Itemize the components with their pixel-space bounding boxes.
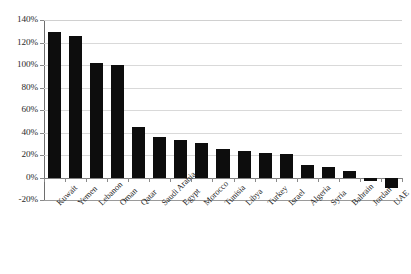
y-axis-tick-mark — [40, 65, 44, 66]
x-axis-tick-mark — [44, 178, 45, 182]
x-axis-tick-mark — [234, 178, 235, 182]
y-axis-tick-label: 40% — [0, 128, 38, 137]
x-axis-tick-mark — [276, 178, 277, 182]
x-axis-tick-mark — [318, 178, 319, 182]
bar — [343, 171, 356, 178]
y-axis-tick-label: 80% — [0, 83, 38, 92]
x-axis-tick-mark — [381, 178, 382, 182]
x-axis-tick-mark — [255, 178, 256, 182]
x-axis-labels: KuwaitYemenLebanonOmanQatarSaudi ArabiaE… — [44, 201, 402, 274]
plot-area — [44, 20, 402, 200]
y-axis-tick-label: 60% — [0, 105, 38, 114]
bar — [238, 151, 251, 178]
bar — [364, 178, 377, 181]
y-axis-tick-label: -20% — [0, 195, 38, 204]
y-axis-tick-label: 100% — [0, 60, 38, 69]
bar-chart: 140%120%100%80%60%40%20%0%-20% KuwaitYem… — [0, 0, 411, 274]
bar — [90, 63, 103, 178]
y-axis-tick-mark — [40, 133, 44, 134]
y-axis-tick-mark — [40, 155, 44, 156]
y-axis-tick-label: 0% — [0, 173, 38, 182]
x-axis-tick-mark — [212, 178, 213, 182]
bar — [216, 149, 229, 177]
bar — [280, 154, 293, 178]
y-axis-tick-label: 140% — [0, 15, 38, 24]
x-axis-tick-mark — [65, 178, 66, 182]
y-axis-tick-mark — [40, 88, 44, 89]
y-axis-tick-mark — [40, 178, 44, 179]
y-axis-tick-mark — [40, 43, 44, 44]
x-axis-tick-mark — [297, 178, 298, 182]
y-axis-tick-mark — [40, 200, 44, 201]
bars-group — [44, 20, 402, 200]
x-axis-tick-mark — [128, 178, 129, 182]
bar — [69, 36, 82, 178]
y-axis-tick-label: 20% — [0, 150, 38, 159]
x-axis-tick-mark — [360, 178, 361, 182]
y-axis-tick-label: 120% — [0, 38, 38, 47]
x-axis-tick-mark — [339, 178, 340, 182]
bar — [153, 137, 166, 178]
bar — [132, 127, 145, 178]
bar — [195, 143, 208, 178]
bar — [48, 32, 61, 177]
bar — [111, 65, 124, 178]
x-axis-tick-mark — [149, 178, 150, 182]
bar — [301, 165, 314, 177]
y-axis-tick-mark — [40, 20, 44, 21]
bar — [259, 153, 272, 178]
bar — [174, 140, 187, 177]
x-axis-tick-mark — [107, 178, 108, 182]
x-axis-tick-mark — [170, 178, 171, 182]
x-axis-tick-mark — [402, 178, 403, 182]
y-axis-tick-mark — [40, 110, 44, 111]
x-axis-tick-mark — [86, 178, 87, 182]
y-axis-labels: 140%120%100%80%60%40%20%0%-20% — [0, 0, 38, 274]
bar — [322, 167, 335, 177]
